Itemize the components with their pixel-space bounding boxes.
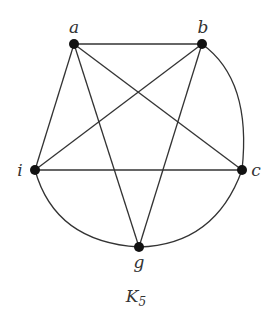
- label-g: g: [134, 252, 145, 272]
- edge-b-i: [35, 44, 202, 170]
- node-a: [69, 39, 79, 49]
- node-g: [134, 242, 144, 252]
- edge-b-g: [139, 44, 202, 247]
- label-i: i: [17, 160, 22, 180]
- edge-a-g: [74, 44, 139, 247]
- node-c: [237, 165, 247, 175]
- edge-a-c: [74, 44, 242, 170]
- label-b: b: [198, 17, 209, 37]
- label-c: c: [251, 160, 261, 180]
- edge-c-g: [139, 170, 242, 247]
- node-i: [30, 165, 40, 175]
- edge-g-i: [35, 170, 139, 247]
- label-a: a: [69, 17, 79, 37]
- edge-b-c: [202, 44, 244, 170]
- caption: K5: [125, 286, 146, 309]
- edge-a-i: [35, 44, 74, 170]
- k5-graph: a b c g i K5: [0, 0, 276, 318]
- caption-subscript: 5: [139, 295, 147, 309]
- node-b: [197, 39, 207, 49]
